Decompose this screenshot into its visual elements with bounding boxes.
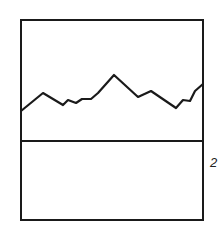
reference-numeral: 2 [210, 155, 217, 170]
diagram-canvas [0, 0, 224, 227]
outer-frame [21, 20, 203, 220]
waveform-line [21, 75, 203, 111]
